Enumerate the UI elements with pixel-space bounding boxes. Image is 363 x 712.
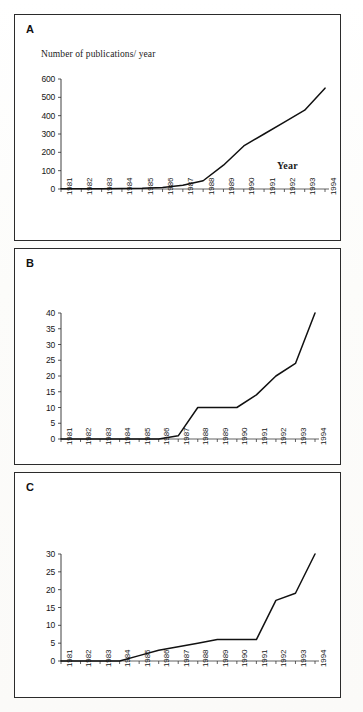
chart-panel-c: C 05101520253019811982198319841985198619… [14,472,341,698]
data-series-line [61,313,315,439]
y-tick-label: 100 [31,167,55,176]
y-tick-label: 10 [31,621,55,630]
x-tick-label: 1994 [319,428,328,445]
y-tick-label: 15 [31,388,55,397]
x-tick-label: 1989 [221,650,230,667]
y-tick-label: 0 [31,657,55,666]
y-tick-label: 200 [31,148,55,157]
chart-panel-b: B 05101520253035401981198219831984198519… [14,248,341,465]
y-tick-label: 300 [31,130,55,139]
x-tick-label: 1989 [221,428,230,445]
plot-area-c: 0510152025301981198219831984198519861987… [15,473,342,697]
x-tick-label: 1986 [166,178,175,195]
x-tick-label: 1991 [260,428,269,445]
data-series-line [61,88,325,188]
x-tick-label: 1992 [279,428,288,445]
x-tick-label: 1989 [227,178,236,195]
x-tick-label: 1981 [65,650,74,667]
x-tick-label: 1981 [65,428,74,445]
y-tick-label: 0 [31,185,55,194]
y-tick-label: 0 [31,435,55,444]
y-tick-label: 40 [31,309,55,318]
x-tick-label: 1982 [85,178,94,195]
y-tick-label: 5 [31,419,55,428]
plot-area-b: 0510152025303540198119821983198419851986… [15,249,342,464]
x-tick-label: 1986 [162,428,171,445]
x-tick-label: 1983 [105,178,114,195]
x-tick-label: 1983 [104,428,113,445]
x-tick-label: 1982 [84,428,93,445]
x-tick-label: 1981 [65,178,74,195]
x-tick-label: 1987 [182,650,191,667]
plot-area-a: 0100200300400500600198119821983198419851… [15,15,342,240]
x-tick-label: 1982 [84,650,93,667]
chart-svg [15,15,342,240]
x-tick-label: 1987 [186,178,195,195]
x-tick-label: 1988 [207,178,216,195]
y-tick-label: 20 [31,586,55,595]
x-tick-label: 1993 [308,178,317,195]
figure-page: A Number of publications/ year Year 0100… [0,0,363,712]
x-tick-label: 1987 [182,428,191,445]
y-tick-label: 35 [31,325,55,334]
y-tick-label: 30 [31,550,55,559]
x-tick-label: 1993 [299,428,308,445]
y-tick-label: 10 [31,404,55,413]
x-tick-label: 1990 [247,178,256,195]
x-tick-label: 1984 [125,178,134,195]
x-tick-label: 1985 [143,650,152,667]
y-tick-label: 400 [31,112,55,121]
x-tick-label: 1990 [240,428,249,445]
chart-panel-a: A Number of publications/ year Year 0100… [14,14,341,241]
x-tick-label: 1984 [123,428,132,445]
x-tick-label: 1994 [329,178,338,195]
y-tick-label: 20 [31,372,55,381]
y-tick-label: 500 [31,93,55,102]
x-tick-label: 1983 [104,650,113,667]
y-tick-label: 5 [31,639,55,648]
x-tick-label: 1986 [162,650,171,667]
x-tick-label: 1992 [279,650,288,667]
x-tick-label: 1993 [299,650,308,667]
x-tick-label: 1988 [201,428,210,445]
y-tick-label: 25 [31,568,55,577]
y-tick-label: 30 [31,341,55,350]
x-tick-label: 1988 [201,650,210,667]
x-tick-label: 1994 [319,650,328,667]
x-tick-label: 1992 [288,178,297,195]
data-series-line [61,554,315,661]
x-tick-label: 1984 [123,650,132,667]
x-tick-label: 1990 [240,650,249,667]
x-tick-label: 1991 [260,650,269,667]
y-tick-label: 25 [31,356,55,365]
y-tick-label: 15 [31,604,55,613]
y-tick-label: 600 [31,75,55,84]
x-tick-label: 1985 [143,428,152,445]
x-tick-label: 1985 [146,178,155,195]
x-tick-label: 1991 [268,178,277,195]
